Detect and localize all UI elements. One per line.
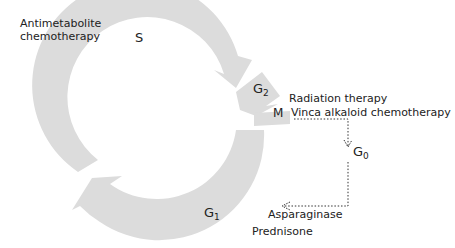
m-phase-label: M xyxy=(273,106,283,120)
asparaginase-label: Asparaginase xyxy=(268,208,343,221)
g2-phase-label: G2 xyxy=(253,81,269,98)
prednisone-label: Prednisone xyxy=(252,225,313,238)
g1-phase-label: G1 xyxy=(204,205,220,222)
radiation-therapy-label: Radiation therapy xyxy=(289,92,387,105)
g1-phase-arc xyxy=(72,130,264,240)
antimetabolite-label: Antimetabolite chemotherapy xyxy=(20,17,101,43)
s-phase-label: S xyxy=(135,30,143,45)
g0-phase-label: G0 xyxy=(353,144,369,161)
g0-dotted-path xyxy=(284,119,348,206)
m-phase-block xyxy=(254,111,290,126)
vinca-alkaloid-label: Vinca alkaloid chemotherapy xyxy=(291,106,451,119)
